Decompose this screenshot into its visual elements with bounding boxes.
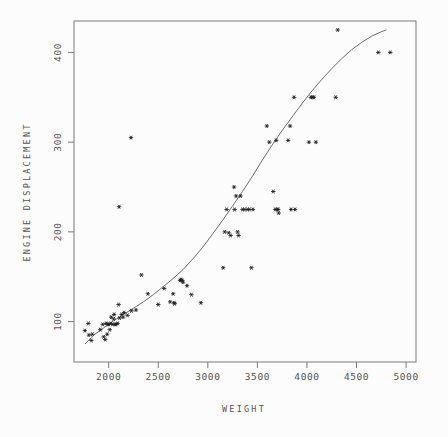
- x-tick-label: 4000: [294, 371, 319, 382]
- x-tick-label: 3500: [245, 371, 270, 382]
- scatter-plot-canvas: 2000250030003500400045005000 10020030040…: [0, 0, 448, 437]
- x-tick-label: 3000: [195, 371, 220, 382]
- y-tick-label: 300: [52, 133, 63, 152]
- chart-figure: 2000250030003500400045005000 10020030040…: [0, 0, 448, 437]
- y-tick-label: 200: [52, 222, 63, 241]
- x-tick-label: 5000: [393, 371, 418, 382]
- x-tick-label: 2000: [96, 371, 121, 382]
- y-axis-title: ENGINE DISPLACEMENT: [22, 122, 32, 261]
- y-tick-label: 400: [52, 43, 63, 62]
- y-tick-label: 100: [52, 312, 63, 331]
- x-axis-title: WEIGHT: [222, 404, 266, 414]
- x-tick-label: 4500: [344, 371, 369, 382]
- x-tick-label: 2500: [146, 371, 171, 382]
